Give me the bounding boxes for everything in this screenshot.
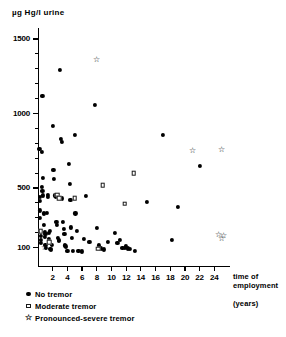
legend-label-0: No tremor bbox=[35, 290, 72, 299]
data-point bbox=[73, 211, 77, 215]
data-point: ☆ bbox=[218, 235, 225, 243]
data-point bbox=[106, 240, 110, 244]
data-point bbox=[131, 171, 136, 176]
data-point bbox=[58, 68, 62, 72]
star-icon: ☆ bbox=[25, 314, 32, 322]
x-tick-22 bbox=[199, 267, 200, 271]
y-tick-1000 bbox=[33, 113, 38, 114]
data-point bbox=[95, 226, 99, 230]
x-tick-24 bbox=[214, 267, 215, 271]
data-point bbox=[40, 150, 44, 154]
x-tick-label-2: 2 bbox=[46, 273, 60, 282]
x-tick-14 bbox=[140, 267, 141, 271]
x-tick-label-4: 4 bbox=[60, 273, 74, 282]
data-point bbox=[52, 177, 56, 181]
data-point bbox=[62, 232, 66, 236]
x-tick-4 bbox=[67, 267, 68, 271]
legend-item-1: Moderate tremor bbox=[22, 300, 134, 312]
data-point bbox=[96, 246, 101, 251]
data-point bbox=[161, 133, 165, 137]
x-tick-label-8: 8 bbox=[90, 273, 104, 282]
data-point: ☆ bbox=[189, 147, 196, 155]
open-square-icon bbox=[26, 304, 31, 309]
data-point bbox=[57, 239, 61, 243]
data-point bbox=[170, 238, 174, 242]
data-point bbox=[75, 229, 79, 233]
data-point bbox=[80, 249, 84, 253]
data-point bbox=[46, 195, 50, 199]
data-point bbox=[113, 231, 117, 235]
legend-marker-0 bbox=[22, 292, 35, 296]
data-point bbox=[67, 162, 71, 166]
data-point bbox=[175, 205, 179, 209]
y-minor-tick-600 bbox=[35, 173, 38, 174]
data-point bbox=[51, 124, 55, 128]
x-tick-12 bbox=[126, 267, 127, 271]
y-tick-label-1000: 1000 bbox=[4, 109, 30, 118]
data-point bbox=[62, 227, 66, 231]
legend-label-2: Pronounced-severe tremor bbox=[35, 314, 134, 323]
x-tick-label-14: 14 bbox=[134, 273, 148, 282]
data-point bbox=[73, 133, 77, 137]
legend-marker-1 bbox=[22, 304, 35, 309]
data-point bbox=[145, 200, 149, 204]
data-point bbox=[41, 175, 45, 179]
legend-item-2: ☆Pronounced-severe tremor bbox=[22, 312, 134, 324]
x-tick-label-12: 12 bbox=[119, 273, 133, 282]
data-point bbox=[67, 182, 71, 186]
data-point bbox=[102, 247, 106, 251]
data-point bbox=[198, 164, 202, 168]
data-point: ☆ bbox=[41, 244, 48, 252]
data-point bbox=[70, 236, 74, 240]
y-minor-tick-700 bbox=[35, 158, 38, 159]
y-tick-1500 bbox=[33, 38, 38, 39]
legend-label-1: Moderate tremor bbox=[35, 302, 96, 311]
x-tick-label-6: 6 bbox=[75, 273, 89, 282]
data-point bbox=[71, 249, 75, 253]
x-tick-16 bbox=[155, 267, 156, 271]
y-minor-tick-800 bbox=[35, 143, 38, 144]
filled-circle-icon bbox=[26, 292, 30, 296]
y-tick-100 bbox=[33, 247, 38, 248]
data-point bbox=[61, 220, 65, 224]
x-axis-title: time of employment bbox=[233, 272, 286, 290]
data-point bbox=[38, 199, 42, 203]
data-point bbox=[57, 196, 62, 201]
y-tick-label-100: 100 bbox=[4, 243, 30, 252]
data-point bbox=[38, 229, 43, 234]
data-point bbox=[87, 240, 91, 244]
data-point bbox=[42, 223, 46, 227]
x-tick-label-10: 10 bbox=[104, 273, 118, 282]
data-point bbox=[49, 248, 53, 252]
data-point bbox=[100, 183, 105, 188]
y-minor-tick-400 bbox=[35, 202, 38, 203]
x-tick-label-16: 16 bbox=[149, 273, 163, 282]
data-point bbox=[69, 225, 73, 229]
data-point: ☆ bbox=[218, 146, 225, 154]
x-tick-6 bbox=[81, 267, 82, 271]
data-point bbox=[65, 249, 69, 253]
x-tick-label-22: 22 bbox=[193, 273, 207, 282]
data-point bbox=[122, 201, 127, 206]
data-point bbox=[38, 216, 42, 220]
data-point bbox=[45, 210, 49, 214]
data-point bbox=[40, 94, 44, 98]
x-tick-10 bbox=[111, 267, 112, 271]
data-point: ☆ bbox=[93, 56, 100, 64]
y-minor-tick-1200 bbox=[35, 83, 38, 84]
data-point bbox=[84, 194, 88, 198]
y-tick-label-500: 500 bbox=[4, 183, 30, 192]
data-point bbox=[133, 249, 137, 253]
x-tick-label-20: 20 bbox=[178, 273, 192, 282]
legend-item-0: No tremor bbox=[22, 288, 134, 300]
y-minor-tick-1400 bbox=[35, 53, 38, 54]
scatter-plot-figure: µg Hg/l urine 10050010001500 24681012141… bbox=[0, 0, 286, 337]
x-tick-2 bbox=[52, 267, 53, 271]
data-point bbox=[51, 168, 55, 172]
data-point bbox=[55, 223, 59, 227]
y-minor-tick-1100 bbox=[35, 98, 38, 99]
x-tick-8 bbox=[96, 267, 97, 271]
legend-marker-2: ☆ bbox=[22, 314, 35, 322]
data-point bbox=[48, 229, 52, 233]
x-tick-18 bbox=[170, 267, 171, 271]
